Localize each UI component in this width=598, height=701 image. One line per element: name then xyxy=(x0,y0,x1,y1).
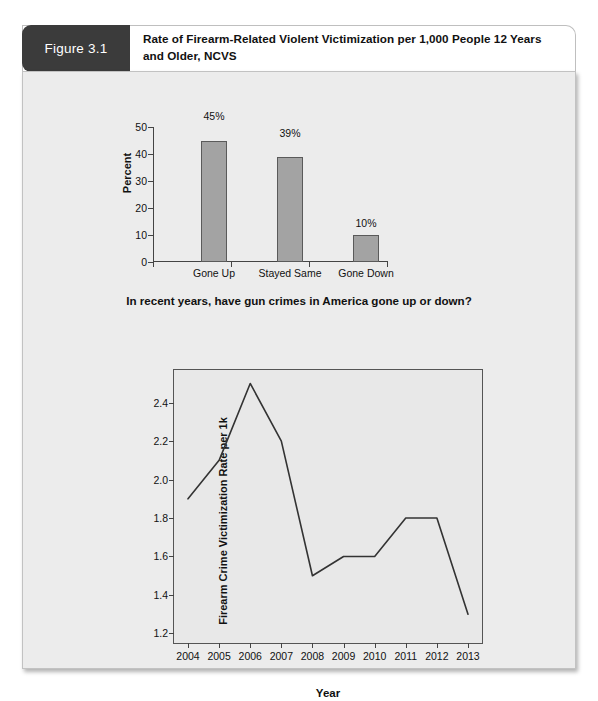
line-chart-y-tick-label: 2.0 xyxy=(153,474,168,486)
line-chart-plot-area: Firearm Crime Victimization Rate per 1k … xyxy=(173,369,483,644)
line-chart-x-tick xyxy=(344,643,345,648)
figure-number-badge: Figure 3.1 xyxy=(22,25,130,72)
bar-chart-y-tick xyxy=(148,208,153,209)
line-chart-series xyxy=(174,370,482,643)
bar-chart-y-tick xyxy=(148,181,153,182)
line-chart-x-tick-label: 2006 xyxy=(239,650,262,662)
line-chart-x-tick xyxy=(437,643,438,648)
bar-category-label: Gone Down xyxy=(338,267,393,279)
bar-chart-y-tick-label: 40 xyxy=(135,148,147,160)
line-chart-y-tick-label: 2.2 xyxy=(153,435,168,447)
bar-chart-y-tick-label: 0 xyxy=(141,256,147,268)
bar-chart-y-tick xyxy=(148,127,153,128)
line-chart-x-tick-label: 2012 xyxy=(425,650,448,662)
line-chart-x-tick-label: 2010 xyxy=(363,650,386,662)
line-chart-y-tick-label: 2.4 xyxy=(153,397,168,409)
bar-chart-y-tick xyxy=(148,235,153,236)
line-chart-x-tick xyxy=(406,643,407,648)
bar-chart-y-axis-title: Percent xyxy=(121,153,133,193)
line-chart-x-tick xyxy=(375,643,376,648)
bar-chart: Percent 01020304050 45% 39% 10% xyxy=(23,72,575,337)
bar-chart-y-tick-label: 30 xyxy=(135,175,147,187)
line-chart-x-tick-label: 2013 xyxy=(456,650,479,662)
line-chart-x-axis-title: Year xyxy=(173,687,483,699)
figure-card: Figure 3.1 Rate of Firearm-Related Viole… xyxy=(22,25,576,670)
bar-stayed-same xyxy=(277,157,303,262)
bar-chart-y-tick-label: 50 xyxy=(135,121,147,133)
line-chart-x-tick-label: 2004 xyxy=(176,650,199,662)
bar-gone-down xyxy=(353,235,379,262)
line-chart-x-tick-label: 2009 xyxy=(332,650,355,662)
bar-chart-x-axis-title: In recent years, have gun crimes in Amer… xyxy=(23,293,575,310)
line-chart-y-tick-label: 1.6 xyxy=(153,550,168,562)
line-chart-x-tick xyxy=(250,643,251,648)
bar-category-label: Gone Up xyxy=(193,267,235,279)
bar-chart-y-tick xyxy=(148,154,153,155)
bar-chart-y-axis-line xyxy=(153,127,154,262)
figure-body-panel: Percent 01020304050 45% 39% 10% xyxy=(22,71,576,669)
bar-chart-y-tick-label: 20 xyxy=(135,202,147,214)
bar-chart-plot-area: 01020304050 45% 39% 10% Gone Up Stayed S… xyxy=(153,127,388,262)
bar-value-label: 45% xyxy=(203,110,224,122)
line-chart-x-tick xyxy=(468,643,469,648)
figure-title: Rate of Firearm-Related Violent Victimiz… xyxy=(143,31,561,64)
line-chart-y-tick-label: 1.8 xyxy=(153,512,168,524)
line-chart-x-tick-label: 2011 xyxy=(394,650,417,662)
line-chart-x-tick-label: 2007 xyxy=(270,650,293,662)
bar-chart-y-tick-label: 10 xyxy=(135,229,147,241)
line-chart-x-tick xyxy=(312,643,313,648)
bar-gone-up xyxy=(201,141,227,263)
line-chart-x-tick-label: 2005 xyxy=(207,650,230,662)
line-chart-x-tick xyxy=(188,643,189,648)
line-chart-x-tick xyxy=(281,643,282,648)
bar-value-label: 10% xyxy=(355,217,376,229)
bar-value-label: 39% xyxy=(279,127,300,139)
figure-header: Figure 3.1 Rate of Firearm-Related Viole… xyxy=(22,25,576,71)
line-chart-y-tick-label: 1.4 xyxy=(153,589,168,601)
line-chart-y-tick-label: 1.2 xyxy=(153,627,168,639)
line-chart-x-tick xyxy=(219,643,220,648)
line-chart: Firearm Crime Victimization Rate per 1k … xyxy=(23,337,575,670)
bar-chart-x-tick xyxy=(153,262,154,267)
line-chart-x-tick-label: 2008 xyxy=(301,650,324,662)
bar-category-label: Stayed Same xyxy=(258,267,321,279)
